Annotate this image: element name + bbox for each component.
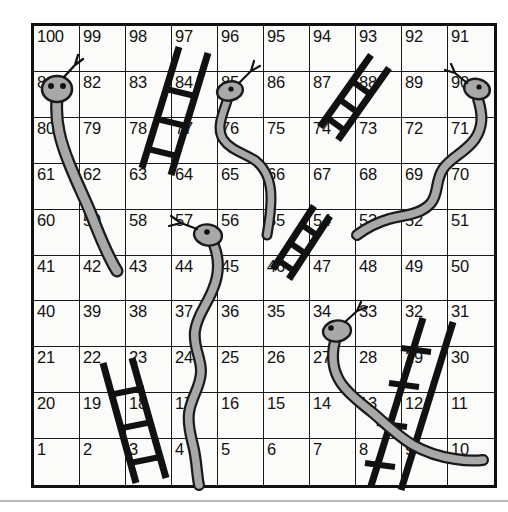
board-cell-80[interactable]: 80 xyxy=(34,118,80,164)
board-cell-34[interactable]: 34 xyxy=(310,301,356,347)
board-cell-14[interactable]: 14 xyxy=(310,393,356,439)
board-cell-94[interactable]: 94 xyxy=(310,26,356,72)
board-cell-6[interactable]: 6 xyxy=(264,439,310,485)
board-cell-100[interactable]: 100 xyxy=(34,26,80,72)
board-cell-71[interactable]: 71 xyxy=(448,118,494,164)
board-cell-72[interactable]: 72 xyxy=(402,118,448,164)
board-cell-84[interactable]: 84 xyxy=(172,72,218,118)
board-cell-87[interactable]: 87 xyxy=(310,72,356,118)
board-cell-3[interactable]: 3 xyxy=(126,439,172,485)
board-cell-39[interactable]: 39 xyxy=(80,301,126,347)
board-cell-56[interactable]: 56 xyxy=(218,210,264,256)
board-cell-31[interactable]: 31 xyxy=(448,301,494,347)
board-cell-22[interactable]: 22 xyxy=(80,347,126,393)
board-cell-13[interactable]: 13 xyxy=(356,393,402,439)
board-cell-60[interactable]: 60 xyxy=(34,210,80,256)
board-cell-2[interactable]: 2 xyxy=(80,439,126,485)
board-cell-93[interactable]: 93 xyxy=(356,26,402,72)
board-cell-46[interactable]: 46 xyxy=(264,256,310,302)
board-cell-36[interactable]: 36 xyxy=(218,301,264,347)
board-cell-33[interactable]: 33 xyxy=(356,301,402,347)
board-cell-21[interactable]: 21 xyxy=(34,347,80,393)
board-cell-90[interactable]: 90 xyxy=(448,72,494,118)
board-cell-96[interactable]: 96 xyxy=(218,26,264,72)
board-cell-92[interactable]: 92 xyxy=(402,26,448,72)
board-cell-54[interactable]: 54 xyxy=(310,210,356,256)
board-cell-98[interactable]: 98 xyxy=(126,26,172,72)
board-cell-62[interactable]: 62 xyxy=(80,164,126,210)
board-cell-55[interactable]: 55 xyxy=(264,210,310,256)
board-cell-44[interactable]: 44 xyxy=(172,256,218,302)
board-cell-47[interactable]: 47 xyxy=(310,256,356,302)
board-cell-52[interactable]: 52 xyxy=(402,210,448,256)
board-cell-89[interactable]: 89 xyxy=(402,72,448,118)
board-cell-78[interactable]: 78 xyxy=(126,118,172,164)
board-cell-86[interactable]: 86 xyxy=(264,72,310,118)
board-cell-59[interactable]: 59 xyxy=(80,210,126,256)
board-cell-95[interactable]: 95 xyxy=(264,26,310,72)
board-cell-29[interactable]: 29 xyxy=(402,347,448,393)
board-cell-20[interactable]: 20 xyxy=(34,393,80,439)
board-cell-5[interactable]: 5 xyxy=(218,439,264,485)
board-cell-69[interactable]: 69 xyxy=(402,164,448,210)
board-cell-40[interactable]: 40 xyxy=(34,301,80,347)
board-cell-8[interactable]: 8 xyxy=(356,439,402,485)
board-cell-32[interactable]: 32 xyxy=(402,301,448,347)
board-cell-41[interactable]: 41 xyxy=(34,256,80,302)
board-cell-81[interactable]: 81 xyxy=(34,72,80,118)
board-cell-25[interactable]: 25 xyxy=(218,347,264,393)
board-cell-99[interactable]: 99 xyxy=(80,26,126,72)
board-cell-7[interactable]: 7 xyxy=(310,439,356,485)
board-cell-63[interactable]: 63 xyxy=(126,164,172,210)
board-cell-64[interactable]: 64 xyxy=(172,164,218,210)
board-cell-26[interactable]: 26 xyxy=(264,347,310,393)
board-cell-15[interactable]: 15 xyxy=(264,393,310,439)
board-cell-88[interactable]: 88 xyxy=(356,72,402,118)
board-cell-70[interactable]: 70 xyxy=(448,164,494,210)
board-cell-10[interactable]: 10 xyxy=(448,439,494,485)
board-cell-77[interactable]: 77 xyxy=(172,118,218,164)
board-cell-1[interactable]: 1 xyxy=(34,439,80,485)
board-cell-30[interactable]: 30 xyxy=(448,347,494,393)
board-cell-35[interactable]: 35 xyxy=(264,301,310,347)
board-cell-79[interactable]: 79 xyxy=(80,118,126,164)
board-cell-24[interactable]: 24 xyxy=(172,347,218,393)
board-cell-45[interactable]: 45 xyxy=(218,256,264,302)
board-cell-18[interactable]: 18 xyxy=(126,393,172,439)
board-cell-27[interactable]: 27 xyxy=(310,347,356,393)
board-cell-37[interactable]: 37 xyxy=(172,301,218,347)
board-cell-43[interactable]: 43 xyxy=(126,256,172,302)
board-cell-11[interactable]: 11 xyxy=(448,393,494,439)
board-cell-38[interactable]: 38 xyxy=(126,301,172,347)
board-cell-73[interactable]: 73 xyxy=(356,118,402,164)
board-cell-16[interactable]: 16 xyxy=(218,393,264,439)
board-cell-75[interactable]: 75 xyxy=(264,118,310,164)
board-cell-51[interactable]: 51 xyxy=(448,210,494,256)
board-cell-97[interactable]: 97 xyxy=(172,26,218,72)
board-cell-53[interactable]: 53 xyxy=(356,210,402,256)
board-cell-68[interactable]: 68 xyxy=(356,164,402,210)
board-cell-19[interactable]: 19 xyxy=(80,393,126,439)
board-cell-76[interactable]: 76 xyxy=(218,118,264,164)
board-cell-57[interactable]: 57 xyxy=(172,210,218,256)
board-cell-82[interactable]: 82 xyxy=(80,72,126,118)
board-cell-83[interactable]: 83 xyxy=(126,72,172,118)
board-cell-74[interactable]: 74 xyxy=(310,118,356,164)
board-cell-67[interactable]: 67 xyxy=(310,164,356,210)
board-cell-49[interactable]: 49 xyxy=(402,256,448,302)
board-cell-58[interactable]: 58 xyxy=(126,210,172,256)
board-cell-66[interactable]: 66 xyxy=(264,164,310,210)
board-cell-85[interactable]: 85 xyxy=(218,72,264,118)
board-cell-91[interactable]: 91 xyxy=(448,26,494,72)
board-cell-17[interactable]: 17 xyxy=(172,393,218,439)
board-cell-65[interactable]: 65 xyxy=(218,164,264,210)
board-cell-23[interactable]: 23 xyxy=(126,347,172,393)
board-cell-12[interactable]: 12 xyxy=(402,393,448,439)
board-cell-61[interactable]: 61 xyxy=(34,164,80,210)
board-cell-4[interactable]: 4 xyxy=(172,439,218,485)
board-cell-28[interactable]: 28 xyxy=(356,347,402,393)
board-cell-50[interactable]: 50 xyxy=(448,256,494,302)
board-cell-9[interactable]: 9 xyxy=(402,439,448,485)
board-cell-48[interactable]: 48 xyxy=(356,256,402,302)
board-cell-42[interactable]: 42 xyxy=(80,256,126,302)
